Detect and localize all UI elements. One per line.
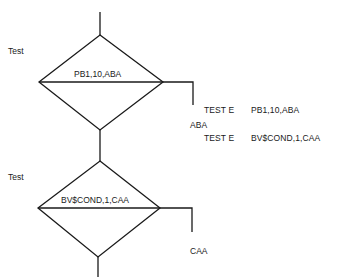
decision-1-content: PB1,10,ABA xyxy=(74,70,121,79)
decision-2-branch-connector xyxy=(160,208,192,232)
decision-2-content: BV$COND,1,CAA xyxy=(61,196,129,205)
code-line-2-args: BV$COND,1,CAA xyxy=(251,134,320,143)
decision-diamond-2 xyxy=(38,161,160,257)
code-line-1-args: PB1,10,ABA xyxy=(251,106,299,115)
decision-2-branch-label: CAA xyxy=(190,247,207,256)
decision-1-side-label: Test xyxy=(8,47,24,56)
code-line-1-op: TEST E xyxy=(204,106,234,115)
decision-1-branch-connector xyxy=(163,82,193,105)
code-label-line: ABA xyxy=(190,121,207,130)
decision-2-side-label: Test xyxy=(8,173,24,182)
code-line-2-op: TEST E xyxy=(204,134,234,143)
